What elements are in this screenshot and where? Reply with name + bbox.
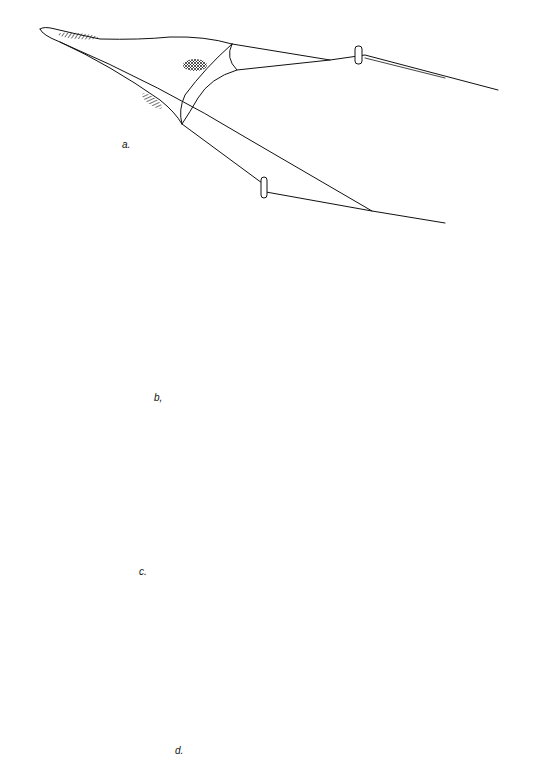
panel-label-d: d. [175, 745, 183, 756]
net-a-upper-warp-2 [365, 58, 445, 78]
panel-label-b: b, [154, 392, 162, 403]
panel-a [40, 28, 498, 224]
mesh-a-1 [58, 31, 98, 40]
net-a-ring-back [182, 44, 237, 124]
otter-board-a-lower [261, 177, 267, 198]
net-a-headline-warp [232, 44, 498, 90]
net-a-footrope-warp [182, 124, 262, 183]
mesh-a-2 [183, 59, 207, 71]
net-a-bottom-outline [40, 29, 182, 124]
net-a-upper-bridle [237, 60, 330, 70]
otter-board-a-upper [355, 46, 362, 64]
panel-label-a: a. [122, 139, 130, 150]
trawl-figure [0, 0, 547, 779]
net-a-lower-warp [266, 192, 445, 223]
net-a-long-line [60, 42, 372, 211]
panel-label-c: c. [139, 566, 147, 577]
net-a-ring-front [181, 44, 232, 124]
